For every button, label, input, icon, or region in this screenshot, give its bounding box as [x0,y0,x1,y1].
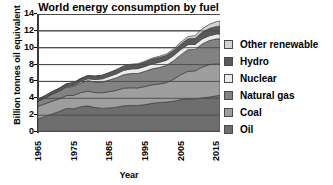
plot-area [38,14,220,132]
y-tick-label: 8 [12,60,34,69]
legend-item[interactable]: Oil [224,121,253,138]
legend-swatch [224,91,233,100]
legend-label: Oil [240,124,253,135]
x-tick: 2015 [210,134,222,168]
x-tick-label: 1965 [33,134,43,168]
x-tick: 1995 [139,134,151,168]
legend-swatch [224,57,233,66]
y-tick-label: 4 [12,93,34,102]
x-tick: 1965 [32,134,44,168]
legend-swatch [224,74,233,83]
legend-item[interactable]: Other renewable [224,36,318,53]
y-tick-label: 2 [12,110,34,119]
x-tick: 1985 [103,134,115,168]
chart-title: World energy consumption by fuel [26,0,231,14]
legend-label: Nuclear [240,73,277,84]
x-tick: 1975 [68,134,80,168]
legend-swatch [224,40,233,49]
x-axis-label: Year [38,170,220,180]
legend-swatch [224,125,233,134]
chart-legend: Other renewableHydroNuclearNatural gasCo… [224,36,333,140]
x-tick-label: 2005 [176,134,186,168]
chart-figure: World energy consumption by fuel Billion… [0,0,333,185]
y-tick-label: 0 [12,127,34,136]
x-axis-tick-labels: 196519751985199520052015 [38,134,220,170]
y-tick-label: 10 [12,43,34,52]
x-tick-label: 1975 [69,134,79,168]
legend-item[interactable]: Hydro [224,53,269,70]
x-tick: 2005 [175,134,187,168]
x-tick-label: 1995 [140,134,150,168]
y-tick-label: 14 [12,9,34,18]
y-axis-tick-labels: 02468101214 [12,14,34,132]
x-tick-label: 1985 [104,134,114,168]
x-tick-label: 2015 [211,134,221,168]
y-tick-label: 12 [12,26,34,35]
legend-label: Natural gas [240,90,294,101]
legend-item[interactable]: Nuclear [224,70,277,87]
stacked-area-chart [38,14,220,132]
legend-label: Hydro [240,56,269,67]
legend-label: Coal [240,107,262,118]
legend-item[interactable]: Coal [224,104,262,121]
y-tick-label: 6 [12,76,34,85]
legend-item[interactable]: Natural gas [224,87,294,104]
legend-label: Other renewable [240,39,318,50]
legend-swatch [224,108,233,117]
